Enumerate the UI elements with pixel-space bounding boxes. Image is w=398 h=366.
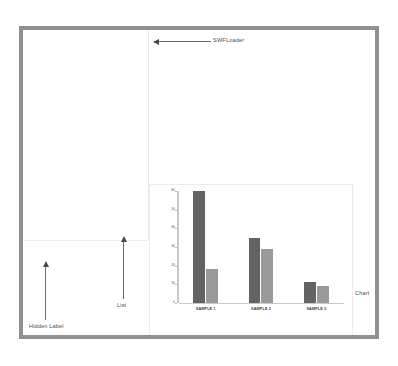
column-chart[interactable]: 0102030405060 SAMPLE 1SAMPLE 2SAMPLE 3 bbox=[149, 184, 353, 335]
chart-y-tick-mark bbox=[175, 303, 177, 304]
swfloader-callout-label: SWFLoader bbox=[213, 37, 244, 43]
chart-y-tick-mark bbox=[175, 191, 177, 192]
chart-y-tick-mark bbox=[175, 247, 177, 248]
application-window-frame: SWFLoader List Hidden Label Chart 010203… bbox=[19, 26, 379, 339]
chart-x-axis bbox=[179, 303, 344, 304]
chart-callout-label: Chart bbox=[355, 290, 369, 296]
container-divider-horizontal bbox=[23, 240, 149, 241]
hidden-label-callout-arrow bbox=[45, 266, 46, 320]
chart-bar[interactable] bbox=[206, 269, 218, 303]
chart-plot-area: 0102030405060 bbox=[178, 191, 344, 303]
chart-bar[interactable] bbox=[261, 249, 273, 303]
chart-bar[interactable] bbox=[304, 282, 316, 303]
chart-bar[interactable] bbox=[249, 238, 261, 303]
arrow-head-up-icon bbox=[43, 261, 49, 267]
chart-y-tick-mark bbox=[175, 210, 177, 211]
hidden-label-callout-label: Hidden Label bbox=[29, 323, 64, 329]
chart-bar[interactable] bbox=[193, 191, 205, 303]
chart-category-label: SAMPLE 3 bbox=[306, 307, 326, 311]
chart-category-label: SAMPLE 2 bbox=[251, 307, 271, 311]
chart-bar-group-container bbox=[178, 191, 344, 303]
chart-y-tick-mark bbox=[175, 284, 177, 285]
list-callout-label: List bbox=[117, 302, 126, 308]
chart-bar[interactable] bbox=[317, 286, 329, 303]
arrow-head-up-icon bbox=[121, 236, 127, 242]
chart-category-label: SAMPLE 1 bbox=[196, 307, 216, 311]
list-callout-arrow bbox=[123, 241, 124, 299]
application-canvas: SWFLoader List Hidden Label Chart 010203… bbox=[23, 30, 375, 335]
swfloader-callout-arrow bbox=[154, 41, 211, 42]
arrow-head-left-icon bbox=[153, 39, 159, 45]
chart-y-tick-mark bbox=[175, 266, 177, 267]
chart-y-tick-mark bbox=[175, 228, 177, 229]
